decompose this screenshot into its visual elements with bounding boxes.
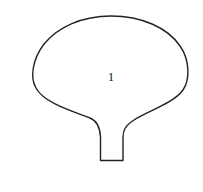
flask-outline [33, 16, 188, 161]
region-label: 1 [108, 69, 115, 84]
diagram-canvas: 1 [0, 0, 203, 192]
